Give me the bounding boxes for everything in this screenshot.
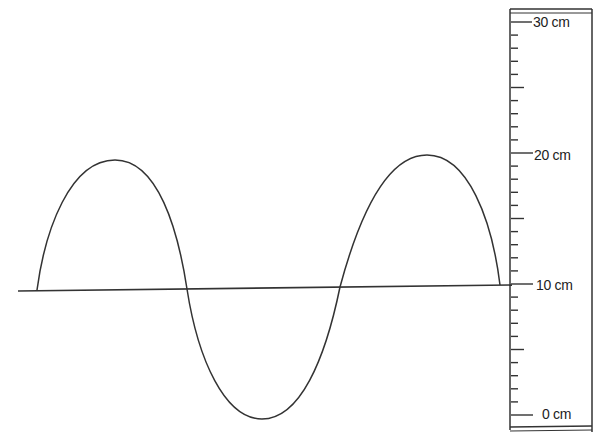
ruler-label-20cm: 20 cm	[533, 147, 572, 163]
ruler-label-0cm: 0 cm	[541, 406, 572, 422]
ruler-label-30cm: 30 cm	[532, 14, 571, 30]
equilibrium-line	[18, 285, 512, 291]
wave-diagram	[0, 0, 603, 448]
ruler-label-10cm: 10 cm	[535, 277, 574, 293]
ruler-ticks	[511, 22, 533, 415]
ruler	[510, 9, 592, 432]
sine-wave	[37, 155, 500, 419]
